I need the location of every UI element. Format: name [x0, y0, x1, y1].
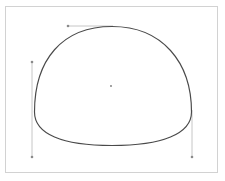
- left-handle-dot-bottom[interactable]: [31, 156, 34, 159]
- vector-canvas[interactable]: [0, 0, 225, 181]
- dome-shape-path[interactable]: [35, 27, 192, 146]
- left-handle-dot-top[interactable]: [31, 61, 34, 64]
- center-anchor-dot[interactable]: [110, 85, 112, 87]
- top-handle-dot[interactable]: [67, 25, 70, 28]
- handle-group: [31, 25, 194, 159]
- right-handle-dot-bottom[interactable]: [191, 156, 194, 159]
- drawing-layer[interactable]: [0, 0, 225, 181]
